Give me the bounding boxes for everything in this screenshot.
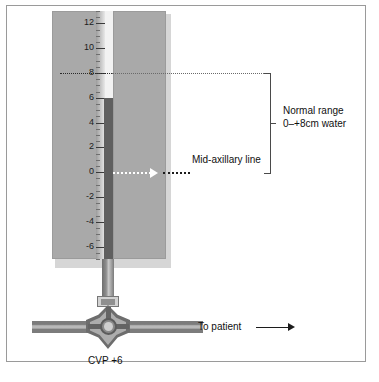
tubing-right-to-patient [126, 321, 203, 333]
scale-label-4: 4 [89, 118, 94, 127]
normal-range-bracket [264, 73, 271, 174]
scale-label-neg4: -4 [86, 217, 94, 226]
scale-label-neg2: -2 [86, 192, 94, 201]
to-patient-label: To patient [198, 320, 241, 333]
scale-label-0: 0 [89, 167, 94, 176]
scale-label-neg6: -6 [86, 242, 94, 251]
scale-label-12: 12 [84, 18, 94, 27]
mid-axillary-arrow-dotted-white [113, 172, 151, 174]
stopcock-collar-inner [101, 299, 115, 305]
tubing-left [32, 321, 90, 333]
eight-cm-dotted-line [112, 73, 270, 74]
scale-label-6: 6 [89, 93, 94, 102]
stopcock-spoke-right [115, 324, 129, 329]
eight-cm-dotted-line-inner [60, 73, 112, 74]
to-patient-arrow-icon [288, 323, 295, 331]
manometer-panel-right [113, 11, 166, 259]
normal-range-bracket-nub [270, 123, 276, 124]
scale-label-10: 10 [84, 43, 94, 52]
mid-axillary-dotted-line [163, 172, 190, 174]
cvp-manometer-figure: 121086420-2-4-6 Normal range 0–+8cm wate… [0, 0, 379, 382]
normal-range-label-line2: 0–+8cm water [283, 117, 346, 130]
mid-axillary-label: Mid-axillary line [192, 153, 261, 166]
mid-axillary-arrowhead-icon [150, 168, 158, 178]
stopcock-hub-center [104, 322, 113, 331]
fluid-column [104, 98, 113, 259]
scale-number-labels: 121086420-2-4-6 [60, 11, 94, 259]
scale-label-2: 2 [89, 142, 94, 151]
normal-range-label-line1: Normal range [283, 104, 344, 117]
to-patient-arrow-line [256, 327, 289, 328]
cvp-reading-label: CVP +6 [88, 354, 123, 367]
